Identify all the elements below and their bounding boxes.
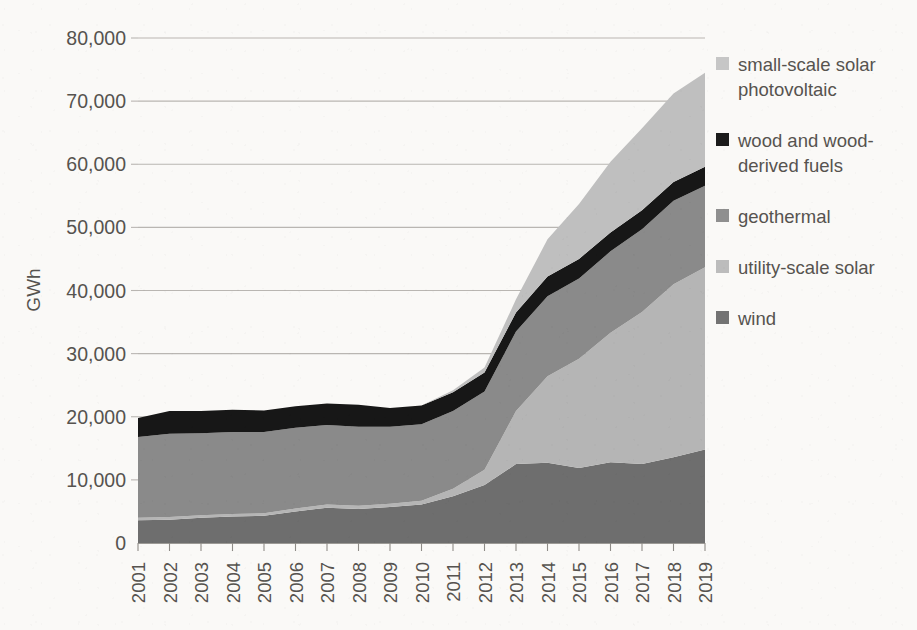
legend-swatch-icon xyxy=(716,209,729,222)
x-axis-tick-label: 2001 xyxy=(128,562,149,603)
legend-item-label: small-scale solar photovoltaic xyxy=(738,52,910,102)
x-axis-tick-label: 2014 xyxy=(538,562,559,603)
legend-item-small-scale-solar-photovoltaic[interactable]: small-scale solar photovoltaic xyxy=(716,52,914,102)
x-axis-tick-label: 2018 xyxy=(664,562,685,603)
x-axis-tick-label: 2002 xyxy=(160,562,181,603)
x-axis-tick-label: 2009 xyxy=(380,562,401,603)
y-axis-title-text: GWh xyxy=(23,268,44,311)
legend-item-label: wind xyxy=(738,306,776,331)
x-axis-tick-label: 2008 xyxy=(349,562,370,603)
y-axis-tick-label: 0 xyxy=(115,532,126,554)
legend-swatch-icon xyxy=(716,57,729,70)
legend-item-utility-scale-solar[interactable]: utility-scale solar xyxy=(716,255,914,280)
y-axis-tick-label: 20,000 xyxy=(66,406,126,428)
legend-swatch-icon xyxy=(716,260,729,273)
y-axis-tick-label: 60,000 xyxy=(66,153,126,175)
y-axis-tick-labels: 010,00020,00030,00040,00050,00060,00070,… xyxy=(66,27,126,554)
y-axis-title: GWh xyxy=(23,268,44,311)
y-axis-tick-label: 40,000 xyxy=(66,280,126,302)
x-axis-tick-label: 2015 xyxy=(569,562,590,603)
x-axis-tick-label: 2019 xyxy=(695,562,716,603)
legend-item-wood-and-wood-derived-fuels[interactable]: wood and wood-derived fuels xyxy=(716,128,914,178)
x-axis-tick-labels: 2001200220032004200520062007200820092010… xyxy=(128,562,716,603)
area-series-group xyxy=(138,73,705,543)
legend-item-label: geothermal xyxy=(738,204,831,229)
x-axis-tick-label: 2007 xyxy=(317,562,338,603)
x-axis-tick-label: 2016 xyxy=(601,562,622,603)
y-axis-tick-label: 50,000 xyxy=(66,216,126,238)
x-axis-tick-label: 2011 xyxy=(443,562,464,602)
x-axis-tick-label: 2006 xyxy=(286,562,307,603)
legend-item-label: wood and wood-derived fuels xyxy=(738,128,910,178)
chart-legend: small-scale solar photovoltaicwood and w… xyxy=(716,52,914,357)
x-axis-tick-label: 2017 xyxy=(632,562,653,603)
x-axis-tick-label: 2012 xyxy=(475,562,496,603)
legend-item-geothermal[interactable]: geothermal xyxy=(716,204,914,229)
axis-ticks xyxy=(138,543,705,551)
y-axis-tick-label: 70,000 xyxy=(66,90,126,112)
chart-root: 010,00020,00030,00040,00050,00060,00070,… xyxy=(0,0,917,630)
y-axis-tick-label: 10,000 xyxy=(66,469,126,491)
legend-item-wind[interactable]: wind xyxy=(716,306,914,331)
y-axis-tick-label: 30,000 xyxy=(66,343,126,365)
legend-swatch-icon xyxy=(716,311,729,324)
y-axis-tick-label: 80,000 xyxy=(66,27,126,49)
x-axis-tick-label: 2004 xyxy=(223,562,244,603)
legend-item-label: utility-scale solar xyxy=(738,255,875,280)
x-axis-tick-label: 2010 xyxy=(412,562,433,603)
legend-swatch-icon xyxy=(716,133,729,146)
x-axis-tick-label: 2005 xyxy=(254,562,275,603)
x-axis-tick-label: 2013 xyxy=(506,562,527,603)
x-axis-tick-label: 2003 xyxy=(191,562,212,603)
